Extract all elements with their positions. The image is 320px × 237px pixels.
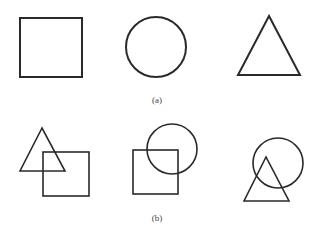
caption-b: (b) (152, 213, 163, 223)
caption-a: (a) (152, 95, 162, 105)
square-shape (20, 18, 82, 77)
panel-b (20, 124, 303, 201)
square-shape (133, 150, 178, 194)
circle-shape (126, 17, 186, 77)
square-shape (43, 152, 89, 196)
shapes-diagram (0, 0, 320, 237)
circle-shape (147, 124, 197, 174)
panel-a (20, 16, 300, 77)
triangle-shape (244, 157, 289, 201)
triangle-shape (238, 16, 300, 75)
